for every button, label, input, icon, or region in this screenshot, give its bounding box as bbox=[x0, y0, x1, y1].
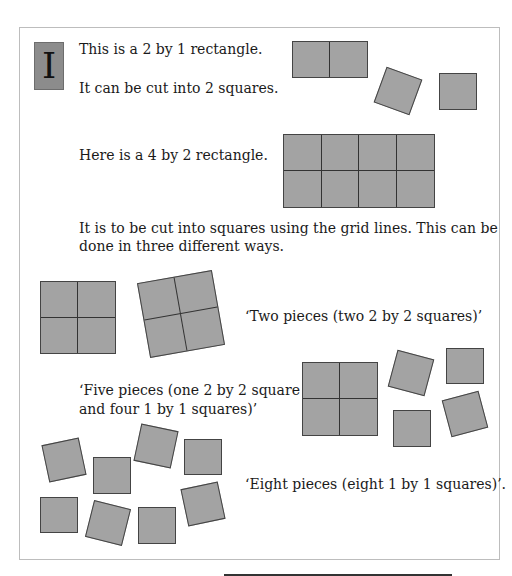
square-piece bbox=[40, 497, 78, 533]
way-five-pieces-1: ‘Five pieces (one 2 by 2 square bbox=[79, 381, 300, 400]
square-piece bbox=[446, 348, 484, 384]
square-piece bbox=[93, 457, 131, 494]
way-eight-pieces: ‘Eight pieces (eight 1 by 1 squares)’. bbox=[245, 475, 506, 494]
way-two-pieces: ‘Two pieces (two 2 by 2 squares)’ bbox=[245, 307, 482, 326]
rectangle-4x2 bbox=[283, 134, 435, 208]
intro-text-2: It can be cut into 2 squares. bbox=[79, 79, 278, 98]
intro-text-1: This is a 2 by 1 rectangle. bbox=[79, 40, 262, 59]
square-piece bbox=[393, 410, 431, 447]
intro-text-3: Here is a 4 by 2 rectangle. bbox=[79, 146, 268, 165]
square-piece bbox=[133, 423, 178, 468]
rectangle-2x1 bbox=[292, 41, 368, 78]
square-2x2 bbox=[40, 281, 116, 354]
square-2x2 bbox=[302, 362, 378, 436]
square-piece bbox=[439, 73, 477, 110]
badge-letter: I bbox=[35, 46, 63, 86]
instruction-text-1: It is to be cut into squares using the g… bbox=[79, 219, 498, 238]
square-piece bbox=[184, 439, 222, 475]
way-five-pieces-2: and four 1 by 1 squares)’ bbox=[79, 400, 257, 419]
square-piece bbox=[138, 507, 176, 544]
square-2x2-rotated bbox=[137, 270, 225, 358]
square-piece bbox=[41, 437, 86, 482]
section-badge: I bbox=[34, 42, 64, 90]
instruction-text-2: done in three different ways. bbox=[79, 237, 284, 256]
square-piece bbox=[180, 481, 225, 526]
